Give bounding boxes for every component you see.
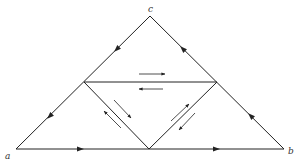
arrow-ab-right-icon (213, 146, 220, 151)
right-diagonal-down-arrow-icon (179, 113, 195, 130)
edge-mid-right-diagonal (149, 82, 217, 149)
triangle-edges (16, 16, 284, 149)
vertex-label-b: b (288, 146, 294, 156)
edge-mid-left-diagonal (84, 82, 149, 149)
vertex-label-a: a (5, 151, 10, 161)
vertex-label-c: c (148, 4, 153, 14)
left-diagonal-up-arrow-icon (104, 111, 121, 128)
arrow-ca-lower-icon (45, 112, 54, 121)
edge-arrows (45, 44, 255, 151)
triangle-diagram: a b c (0, 0, 300, 167)
arrow-ab-left-icon (77, 146, 84, 151)
